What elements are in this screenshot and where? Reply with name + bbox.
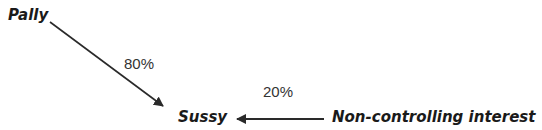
edge-label-nci-share: 20% [263, 83, 293, 101]
edge-label-parent-share: 80% [124, 55, 154, 73]
node-parent: Pally [8, 6, 48, 24]
ownership-diagram: Pally 80% 20% Sussy Non-controlling inte… [0, 0, 542, 130]
node-subsidiary: Sussy [178, 108, 227, 126]
node-non-controlling-interest: Non-controlling interest [332, 108, 535, 126]
